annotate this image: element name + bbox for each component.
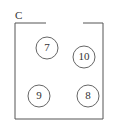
circle-value-10: 10 <box>73 51 95 62</box>
circle-value-9: 9 <box>28 90 50 101</box>
box-outline <box>0 0 115 123</box>
circle-value-8: 8 <box>77 90 99 101</box>
circle-value-7: 7 <box>36 42 58 53</box>
